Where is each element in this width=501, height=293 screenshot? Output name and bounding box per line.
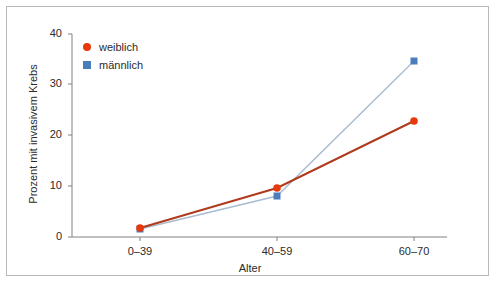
- data-point-weiblich-40-59: [273, 184, 281, 192]
- data-point-weiblich-60-70: [410, 117, 418, 125]
- chart-legend: weiblich männlich: [83, 38, 143, 74]
- y-tick-label-20: 20: [36, 128, 62, 140]
- series-line-maennlich: [140, 61, 414, 229]
- y-tick-label-0: 0: [36, 230, 62, 242]
- legend-label-weiblich: weiblich: [99, 41, 138, 53]
- x-tick-label-40-59: 40–59: [237, 245, 317, 257]
- y-tick-label-30: 30: [36, 77, 62, 89]
- data-point-weiblich-0-39: [136, 224, 144, 232]
- y-axis-title: Prozent mit invasivem Krebs: [27, 39, 39, 229]
- data-point-maennlich-40-59: [274, 193, 281, 200]
- y-tick-label-10: 10: [36, 179, 62, 191]
- legend-label-maennlich: männlich: [99, 59, 143, 71]
- legend-marker-circle-icon: [83, 43, 91, 51]
- legend-marker-square-icon: [83, 61, 91, 69]
- y-tick-label-40: 40: [36, 27, 62, 39]
- x-axis-title: Alter: [180, 262, 320, 274]
- series-line-weiblich: [140, 121, 414, 228]
- x-tick-label-0-39: 0–39: [100, 245, 180, 257]
- data-point-maennlich-60-70: [411, 58, 418, 65]
- legend-item-weiblich[interactable]: weiblich: [83, 38, 143, 55]
- legend-item-maennlich[interactable]: männlich: [83, 56, 143, 73]
- x-tick-label-60-70: 60–70: [374, 245, 454, 257]
